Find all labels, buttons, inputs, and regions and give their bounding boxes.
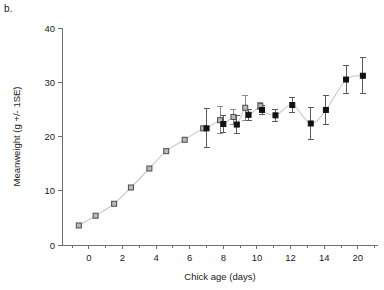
- data-point-open: [93, 213, 98, 218]
- data-point-filled: [221, 122, 226, 127]
- x-tick-label: 0: [86, 252, 91, 263]
- data-point-open: [128, 185, 133, 190]
- y-tick-label: 40: [44, 23, 55, 34]
- x-axis-title: Chick age (days): [184, 271, 255, 282]
- axis-labels-layer: 0102030400246810121420Chick age (days)Me…: [11, 23, 363, 283]
- data-point-filled: [246, 112, 251, 117]
- data-point-filled: [344, 77, 349, 82]
- data-point-open: [231, 114, 236, 119]
- data-point-filled: [273, 113, 278, 118]
- x-tick-label: 10: [252, 252, 263, 263]
- data-point-filled: [323, 107, 328, 112]
- y-tick-label: 30: [44, 77, 55, 88]
- chart-plot-area: 0102030400246810121420Chick age (days)Me…: [0, 0, 384, 290]
- growth-fit-line: [79, 76, 363, 226]
- y-tick-label: 20: [44, 131, 55, 142]
- x-tick-label: 20: [353, 252, 364, 263]
- data-point-filled: [260, 107, 265, 112]
- figure-panel-b: b. 0102030400246810121420Chick age (days…: [0, 0, 384, 290]
- data-point-open: [147, 166, 152, 171]
- data-point-filled: [308, 121, 313, 126]
- y-tick-label: 0: [50, 240, 55, 251]
- data-point-open: [164, 149, 169, 154]
- y-tick-label: 10: [44, 185, 55, 196]
- axes-layer: [58, 28, 378, 249]
- error-bar-layer: [204, 58, 366, 148]
- data-point-filled: [204, 126, 209, 131]
- data-point-filled: [290, 103, 295, 108]
- data-point-open: [182, 137, 187, 142]
- x-tick-label: 8: [221, 252, 226, 263]
- data-point-filled: [234, 122, 239, 127]
- data-point-layer: [76, 73, 365, 228]
- data-point-open: [76, 223, 81, 228]
- data-point-filled: [360, 73, 365, 78]
- fit-line-layer: [79, 76, 363, 226]
- x-tick-label: 14: [319, 252, 330, 263]
- data-point-open: [243, 105, 248, 110]
- data-point-open: [112, 201, 117, 206]
- x-tick-label: 12: [285, 252, 296, 263]
- x-tick-label: 6: [187, 252, 192, 263]
- y-axis-title: Meanweight (g +/- 1SE): [11, 86, 22, 186]
- x-tick-label: 4: [153, 252, 158, 263]
- x-tick-label: 2: [120, 252, 125, 263]
